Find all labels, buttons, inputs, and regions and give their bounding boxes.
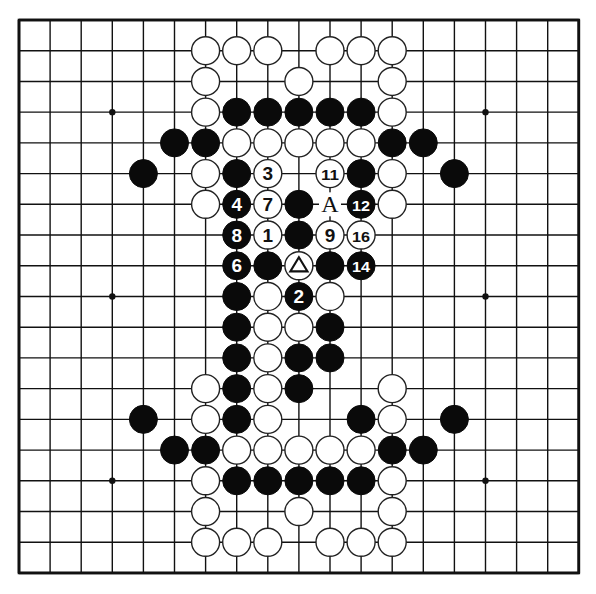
black-stone (285, 344, 313, 372)
black-stone (316, 467, 344, 495)
white-stone-disc (223, 528, 251, 556)
black-stone (192, 129, 220, 157)
black-stone-disc (440, 160, 468, 188)
white-stone-disc (347, 528, 375, 556)
black-stone (440, 160, 468, 188)
white-stone-disc (285, 67, 313, 95)
black-stone (223, 313, 251, 341)
white-stone (192, 37, 220, 65)
black-stone-disc (254, 467, 282, 495)
white-stone-disc (254, 344, 282, 372)
white-stone (285, 67, 313, 95)
black-stone-disc (223, 160, 251, 188)
black-stone (285, 190, 313, 218)
white-stone (378, 405, 406, 433)
white-stone (192, 190, 220, 218)
black-stone (254, 252, 282, 280)
white-stone-disc (378, 190, 406, 218)
white-stone-disc (192, 467, 220, 495)
white-stone (378, 467, 406, 495)
white-stone (254, 375, 282, 403)
black-stone (316, 252, 344, 280)
white-stone-disc (378, 498, 406, 526)
black-stone: 8 (223, 221, 251, 249)
black-stone (223, 467, 251, 495)
white-stone-disc (223, 129, 251, 157)
white-stone (254, 129, 282, 157)
black-stone (347, 405, 375, 433)
black-stone (347, 160, 375, 188)
black-stone: 2 (285, 282, 313, 310)
white-stone (192, 98, 220, 126)
black-stone-disc (161, 436, 189, 464)
star-point (109, 478, 115, 484)
white-stone (378, 498, 406, 526)
black-stone-disc (223, 405, 251, 433)
white-stone (378, 67, 406, 95)
star-point (482, 293, 488, 299)
black-stone (285, 375, 313, 403)
black-stone (378, 436, 406, 464)
black-stone-disc (316, 344, 344, 372)
white-stone-disc (316, 528, 344, 556)
white-stone (223, 528, 251, 556)
white-stone-disc (316, 282, 344, 310)
white-stone (254, 37, 282, 65)
white-stone (223, 436, 251, 464)
white-stone-disc (285, 436, 313, 464)
black-stone-disc (223, 467, 251, 495)
white-stone (254, 313, 282, 341)
white-stone (378, 160, 406, 188)
white-stone-disc (254, 313, 282, 341)
white-stone-disc (254, 436, 282, 464)
white-stone-disc (192, 498, 220, 526)
black-stone-disc (223, 313, 251, 341)
white-stone: 16 (347, 221, 375, 249)
white-stone-disc (254, 375, 282, 403)
white-stone-disc (347, 436, 375, 464)
black-stone-disc (223, 344, 251, 372)
white-stone-disc (378, 467, 406, 495)
black-stone-disc (285, 467, 313, 495)
black-stone-disc (347, 160, 375, 188)
move-number-label: 16 (352, 228, 370, 245)
black-stone-disc (285, 190, 313, 218)
move-number-label: 3 (263, 163, 274, 184)
white-stone-disc (223, 37, 251, 65)
white-stone (285, 252, 313, 280)
black-stone (223, 375, 251, 403)
black-stone-disc (285, 98, 313, 126)
black-stone-disc (129, 160, 157, 188)
white-stone (378, 98, 406, 126)
black-stone (161, 129, 189, 157)
white-stone-disc (254, 129, 282, 157)
black-stone (378, 129, 406, 157)
white-stone (223, 129, 251, 157)
black-stone-disc (285, 344, 313, 372)
white-stone-disc (192, 98, 220, 126)
white-stone-disc (192, 405, 220, 433)
white-stone (285, 313, 313, 341)
black-stone (285, 221, 313, 249)
white-stone (316, 129, 344, 157)
white-stone-disc (347, 37, 375, 65)
white-stone-disc (254, 37, 282, 65)
black-stone (254, 98, 282, 126)
white-stone-disc (192, 67, 220, 95)
white-stone (254, 436, 282, 464)
star-point (109, 109, 115, 115)
black-stone-disc (440, 405, 468, 433)
move-number-label: 11 (321, 166, 339, 183)
white-stone-disc (378, 67, 406, 95)
black-stone-disc (254, 252, 282, 280)
star-point (482, 478, 488, 484)
black-stone (129, 160, 157, 188)
white-stone-disc (254, 405, 282, 433)
white-stone-disc (285, 129, 313, 157)
white-stone: 9 (316, 221, 344, 249)
white-stone (254, 282, 282, 310)
white-stone (316, 37, 344, 65)
white-stone (285, 498, 313, 526)
black-stone-disc (347, 98, 375, 126)
black-stone: 12 (347, 190, 375, 218)
